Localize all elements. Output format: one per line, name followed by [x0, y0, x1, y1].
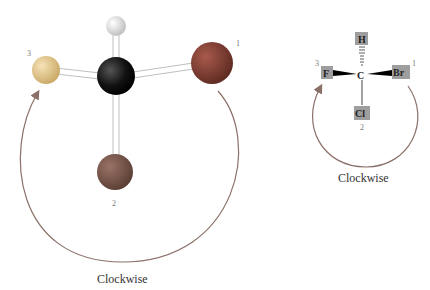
- atom-cl: Cl: [355, 108, 365, 119]
- atom-c: C: [357, 70, 364, 81]
- diagram-canvas: 1 3 2 Clockwise H F C Br Cl 3 1: [0, 0, 430, 290]
- clockwise-arrow-right: [313, 86, 418, 167]
- priority-label-3: 3: [27, 49, 31, 58]
- wedge-dash-structure: H F C Br Cl 3 1 2 Clockwise: [313, 32, 418, 185]
- priority-label-2: 2: [112, 199, 116, 208]
- priority-3-atom: [32, 56, 60, 84]
- carbon-atom: [97, 57, 135, 95]
- atom-br: Br: [393, 67, 405, 78]
- right-caption: Clockwise: [338, 171, 389, 185]
- hashed-bond: [359, 47, 365, 65]
- atom-h: H: [358, 34, 366, 45]
- priority-label-3-right: 3: [315, 59, 319, 68]
- wedge-bond-br: [367, 70, 392, 76]
- priority-label-1-right: 1: [412, 59, 416, 68]
- bonds: [47, 30, 200, 160]
- priority-label-1: 1: [236, 39, 240, 48]
- ball-and-stick-model: 1 3 2 Clockwise: [20, 16, 240, 286]
- atom-f: F: [323, 68, 329, 79]
- left-caption: Clockwise: [97, 272, 148, 286]
- priority-label-2-right: 2: [360, 123, 364, 132]
- wedge-bond-f: [333, 70, 357, 76]
- priority-2-atom: [97, 154, 133, 190]
- hydrogen-atom: [106, 16, 126, 36]
- priority-1-atom: [191, 42, 233, 84]
